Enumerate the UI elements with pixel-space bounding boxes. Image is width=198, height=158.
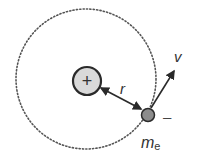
bohr-atom-diagram: + r v – me	[0, 0, 198, 158]
radius-label: r	[120, 80, 126, 97]
electron	[142, 109, 155, 122]
electron-mass-label: me	[141, 134, 160, 152]
velocity-label: v	[174, 48, 183, 65]
mass-subscript: e	[154, 140, 160, 152]
nucleus: +	[73, 67, 101, 95]
plus-sign: +	[82, 71, 93, 91]
charge-label: –	[163, 108, 172, 125]
mass-symbol: m	[141, 134, 154, 151]
